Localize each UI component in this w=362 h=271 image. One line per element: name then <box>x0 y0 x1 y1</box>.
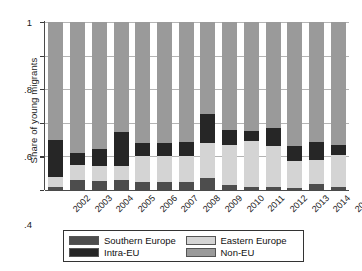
bar-segment-southern-europe[interactable] <box>200 178 215 190</box>
bar-2005[interactable] <box>114 22 129 190</box>
bar-segment-southern-europe[interactable] <box>157 182 172 190</box>
bar-segment-intra-eu[interactable] <box>287 146 302 160</box>
legend-swatch-icon <box>186 248 216 257</box>
bar-segment-eastern-europe[interactable] <box>200 143 215 178</box>
bar-segment-intra-eu[interactable] <box>114 132 129 166</box>
bar-segment-eastern-europe[interactable] <box>309 160 324 184</box>
bar-2002[interactable] <box>48 22 63 190</box>
bar-2013[interactable] <box>287 22 302 190</box>
bar-segment-southern-europe[interactable] <box>266 187 281 190</box>
y-tick-label: .4 <box>24 218 32 229</box>
bar-segment-intra-eu[interactable] <box>222 130 237 144</box>
bar-segment-southern-europe[interactable] <box>287 188 302 190</box>
bar-segment-eastern-europe[interactable] <box>331 155 346 188</box>
bar-segment-intra-eu[interactable] <box>266 128 281 146</box>
bar-2006[interactable] <box>135 22 150 190</box>
bar-segment-non-eu[interactable] <box>135 22 150 143</box>
bar-segment-southern-europe[interactable] <box>135 182 150 190</box>
legend-label: Non-EU <box>221 247 255 258</box>
bar-segment-southern-europe[interactable] <box>92 181 107 190</box>
x-tick-label-2009: 2009 <box>223 193 244 214</box>
x-tick-label-2005: 2005 <box>136 193 157 214</box>
legend-entry-non-eu[interactable]: Non-EU <box>186 247 299 258</box>
legend-entry-eastern-europe[interactable]: Eastern Europe <box>186 235 299 246</box>
legend-label: Southern Europe <box>104 235 176 246</box>
legend-entry-intra-eu[interactable]: Intra-EU <box>69 247 182 258</box>
bar-segment-southern-europe[interactable] <box>48 187 63 190</box>
bar-segment-eastern-europe[interactable] <box>114 166 129 179</box>
x-tick-label-2011: 2011 <box>266 193 287 214</box>
gridline-.8 <box>45 56 349 57</box>
y-tick-label: .6 <box>24 151 32 162</box>
bar-segment-eastern-europe[interactable] <box>92 166 107 181</box>
bar-2010[interactable] <box>222 22 237 190</box>
bar-2012[interactable] <box>266 22 281 190</box>
bar-segment-intra-eu[interactable] <box>92 149 107 166</box>
bar-segment-southern-europe[interactable] <box>114 180 129 190</box>
bar-segment-intra-eu[interactable] <box>309 142 324 160</box>
bar-segment-non-eu[interactable] <box>70 22 85 153</box>
bar-segment-non-eu[interactable] <box>287 22 302 146</box>
bar-2011[interactable] <box>244 22 259 190</box>
bar-segment-eastern-europe[interactable] <box>222 145 237 185</box>
bar-segment-non-eu[interactable] <box>222 22 237 130</box>
bar-segment-non-eu[interactable] <box>266 22 281 128</box>
bar-2007[interactable] <box>157 22 172 190</box>
x-tick-label-2014: 2014 <box>331 193 352 214</box>
bar-segment-eastern-europe[interactable] <box>157 156 172 181</box>
bar-segment-southern-europe[interactable] <box>309 184 324 190</box>
bar-2009[interactable] <box>200 22 215 190</box>
y-tick-mark: .8 <box>40 56 44 57</box>
x-tick-label-2004: 2004 <box>114 193 135 214</box>
bar-2004[interactable] <box>92 22 107 190</box>
gridline-.6 <box>45 89 349 90</box>
bar-segment-eastern-europe[interactable] <box>179 156 194 181</box>
bar-segment-intra-eu[interactable] <box>48 140 63 177</box>
bar-segment-eastern-europe[interactable] <box>244 141 259 187</box>
legend-label: Intra-EU <box>104 247 139 258</box>
chart-legend: Southern EuropeEastern EuropeIntra-EUNon… <box>63 230 304 262</box>
bar-segment-eastern-europe[interactable] <box>135 156 150 181</box>
bar-segment-non-eu[interactable] <box>331 22 346 145</box>
bar-segment-non-eu[interactable] <box>157 22 172 143</box>
bar-segment-intra-eu[interactable] <box>331 145 346 155</box>
bar-2008[interactable] <box>179 22 194 190</box>
bar-segment-non-eu[interactable] <box>114 22 129 132</box>
bar-segment-non-eu[interactable] <box>92 22 107 149</box>
y-tick-mark: .4 <box>40 123 44 124</box>
bar-segment-southern-europe[interactable] <box>244 187 259 190</box>
bar-segment-non-eu[interactable] <box>244 22 259 131</box>
bar-segment-non-eu[interactable] <box>48 22 63 140</box>
gridline-.2 <box>45 156 349 157</box>
bar-segment-eastern-europe[interactable] <box>266 146 281 186</box>
x-tick-label-2012: 2012 <box>288 193 309 214</box>
legend-swatch-icon <box>69 248 99 257</box>
y-tick-label: .8 <box>24 84 32 95</box>
bar-segment-southern-europe[interactable] <box>222 185 237 190</box>
bar-segment-intra-eu[interactable] <box>200 114 215 143</box>
bar-2014[interactable] <box>309 22 324 190</box>
bar-segment-non-eu[interactable] <box>200 22 215 114</box>
bar-segment-eastern-europe[interactable] <box>287 161 302 189</box>
gridline-.4 <box>45 123 349 124</box>
legend-swatch-icon <box>69 236 99 245</box>
bar-segment-eastern-europe[interactable] <box>70 165 85 180</box>
bar-2003[interactable] <box>70 22 85 190</box>
x-tick-label-2003: 2003 <box>92 193 113 214</box>
bar-segment-intra-eu[interactable] <box>135 143 150 156</box>
bar-segment-intra-eu[interactable] <box>70 153 85 165</box>
bar-segment-eastern-europe[interactable] <box>48 177 63 186</box>
bar-2015[interactable] <box>331 22 346 190</box>
bar-segment-intra-eu[interactable] <box>244 131 259 141</box>
bar-segment-southern-europe[interactable] <box>331 187 346 190</box>
bar-segment-non-eu[interactable] <box>179 22 194 142</box>
legend-entry-southern-europe[interactable]: Southern Europe <box>69 235 182 246</box>
bar-segment-southern-europe[interactable] <box>179 182 194 190</box>
bar-segment-non-eu[interactable] <box>309 22 324 142</box>
bar-segment-intra-eu[interactable] <box>157 143 172 156</box>
legend-label: Eastern Europe <box>221 235 287 246</box>
gridline-1 <box>45 22 349 23</box>
bar-segment-intra-eu[interactable] <box>179 142 194 156</box>
bar-segment-southern-europe[interactable] <box>70 180 85 190</box>
x-tick-label-2010: 2010 <box>244 193 265 214</box>
